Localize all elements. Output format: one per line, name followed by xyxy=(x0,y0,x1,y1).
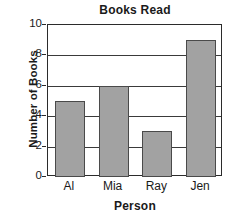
x-tick-label: Ray xyxy=(135,180,179,193)
y-tick-mark xyxy=(42,24,46,25)
bar xyxy=(99,86,129,177)
plot-area xyxy=(47,24,222,176)
y-tick-label: 6 xyxy=(16,79,42,91)
bar xyxy=(55,101,85,177)
bar xyxy=(186,40,216,177)
y-tick-label: 10 xyxy=(16,18,42,30)
y-axis-title: Number of Books xyxy=(27,23,39,175)
y-tick-label: 0 xyxy=(16,170,42,182)
y-tick-mark xyxy=(42,146,46,147)
y-tick-mark xyxy=(42,115,46,116)
y-tick-label: 8 xyxy=(16,48,42,60)
x-axis-title: Person xyxy=(47,199,223,213)
y-tick-mark xyxy=(42,176,46,177)
y-tick-mark xyxy=(42,54,46,55)
y-tick-label: 4 xyxy=(16,109,42,121)
x-tick-label: Mia xyxy=(91,180,135,193)
x-tick-label: Jen xyxy=(178,180,222,193)
bar xyxy=(142,131,172,177)
y-tick-label: 2 xyxy=(16,140,42,152)
chart-title: Books Read xyxy=(47,3,223,17)
bar-chart: Books Read Number of Books 0246810 AlMia… xyxy=(0,0,235,223)
x-tick-label: Al xyxy=(47,180,91,193)
y-tick-mark xyxy=(42,85,46,86)
